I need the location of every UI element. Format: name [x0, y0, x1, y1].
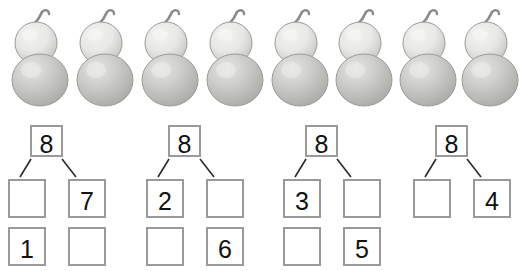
gourd-icon: [75, 4, 141, 112]
bond-whole-box[interactable]: 8: [305, 125, 338, 157]
bond-whole-box[interactable]: 8: [435, 125, 468, 157]
gourd-icon: [205, 4, 271, 112]
bond-whole-box[interactable]: 8: [168, 125, 201, 157]
gourd-icon: [460, 4, 526, 112]
bond-whole-box-value: 8: [32, 132, 61, 157]
bond-answer-right-box[interactable]: 5: [343, 227, 381, 266]
bond-group-4: 84: [405, 115, 525, 271]
bond-answer-left-box[interactable]: [283, 227, 321, 266]
bond-group-2: 826: [138, 115, 258, 271]
bond-answer-left-box[interactable]: 1: [8, 227, 46, 266]
bond-part-right-box[interactable]: 4: [473, 179, 511, 218]
bond-part-right-box[interactable]: [206, 179, 244, 218]
gourd-icon: [270, 4, 336, 112]
bond-answer-right-box[interactable]: 6: [206, 227, 244, 266]
bond-part-left-box[interactable]: [413, 179, 451, 218]
bond-answer-right-box-value: 5: [345, 237, 379, 262]
bond-part-left-box-value: 2: [148, 189, 182, 214]
gourd-icon: [140, 4, 206, 112]
bond-part-left-box[interactable]: 2: [146, 179, 184, 218]
number-bond-area: 87182683584: [0, 115, 526, 271]
gourd-icon: [398, 4, 464, 112]
bond-part-left-box[interactable]: 3: [283, 179, 321, 218]
bond-part-right-box-value: 7: [70, 189, 104, 214]
bond-group-1: 871: [0, 115, 120, 271]
gourd-icon: [10, 4, 76, 112]
bond-whole-box[interactable]: 8: [30, 125, 63, 157]
worksheet-page: 87182683584: [0, 0, 526, 271]
bond-part-left-box[interactable]: [8, 179, 46, 218]
bond-group-3: 835: [275, 115, 395, 271]
bond-part-right-box[interactable]: [343, 179, 381, 218]
bond-whole-box-value: 8: [437, 132, 466, 157]
gourd-icon: [334, 4, 400, 112]
bond-part-right-box-value: 4: [475, 189, 509, 214]
bond-answer-right-box[interactable]: [68, 227, 106, 266]
gourd-row: [0, 0, 526, 115]
bond-part-left-box-value: 3: [285, 189, 319, 214]
bond-part-right-box[interactable]: 7: [68, 179, 106, 218]
bond-answer-right-box-value: 6: [208, 237, 242, 262]
bond-whole-box-value: 8: [170, 132, 199, 157]
bond-answer-left-box[interactable]: [146, 227, 184, 266]
bond-answer-left-box-value: 1: [10, 237, 44, 262]
bond-whole-box-value: 8: [307, 132, 336, 157]
